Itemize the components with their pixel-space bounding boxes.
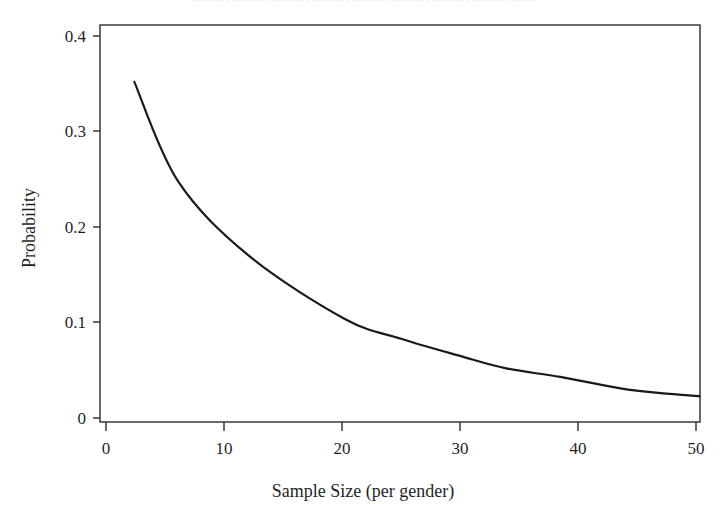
data-curve-probability bbox=[134, 82, 699, 396]
y-axis-title: Probability bbox=[19, 188, 39, 268]
x-axis-ticks bbox=[106, 422, 696, 431]
y-tick-label-0: 0 bbox=[78, 409, 87, 428]
plot-area: 0.4 0.3 0.2 0.1 0 0 10 20 30 40 50 Sampl… bbox=[0, 0, 726, 523]
y-tick-label-4: 0.4 bbox=[65, 27, 87, 46]
x-tick-label-30: 30 bbox=[452, 439, 469, 458]
x-axis-title: Sample Size (per gender) bbox=[272, 481, 454, 502]
y-axis-ticks bbox=[93, 36, 100, 418]
x-axis-tick-labels: 0 10 20 30 40 50 bbox=[102, 439, 705, 458]
y-tick-label-2: 0.2 bbox=[65, 218, 86, 237]
chart-figure: …………………………………………………………… 0.4 0.3 0.2 0.1 … bbox=[0, 0, 726, 523]
x-tick-label-20: 20 bbox=[334, 439, 351, 458]
y-tick-label-1: 0.1 bbox=[65, 313, 86, 332]
plot-frame bbox=[100, 25, 700, 422]
y-axis-tick-labels: 0.4 0.3 0.2 0.1 0 bbox=[65, 27, 87, 428]
y-tick-label-3: 0.3 bbox=[65, 122, 86, 141]
x-tick-label-40: 40 bbox=[570, 439, 587, 458]
x-tick-label-0: 0 bbox=[102, 439, 111, 458]
x-tick-label-10: 10 bbox=[216, 439, 233, 458]
x-tick-label-50: 50 bbox=[688, 439, 705, 458]
